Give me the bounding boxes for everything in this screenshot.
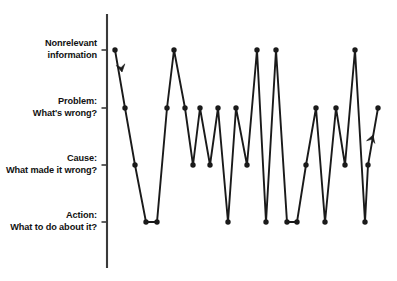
axis-label-action-line2: What to do about it? — [10, 222, 97, 234]
axis-label-nonrelevant: Nonrelevantinformation — [45, 38, 97, 61]
data-point — [333, 105, 338, 110]
arrow-annotation-group — [116, 64, 377, 143]
data-point — [154, 219, 159, 224]
data-point — [273, 47, 278, 52]
data-point — [122, 105, 127, 110]
data-point — [365, 162, 370, 167]
data-point — [233, 105, 238, 110]
axis-label-action-line1: Action: — [10, 210, 97, 222]
data-point — [362, 219, 367, 224]
data-point — [197, 105, 202, 110]
data-point — [254, 47, 259, 52]
data-point — [322, 219, 327, 224]
data-point — [215, 105, 220, 110]
axis-group — [102, 14, 108, 268]
axis-label-problem-line1: Problem: — [33, 96, 97, 108]
data-point — [303, 162, 308, 167]
data-point — [352, 47, 357, 52]
series-line — [115, 50, 378, 222]
chart-figure: NonrelevantinformationProblem:What's wro… — [0, 0, 397, 281]
data-point — [294, 219, 299, 224]
data-point — [375, 105, 380, 110]
data-point — [143, 219, 148, 224]
axis-label-cause: Cause:What made it wrong? — [6, 153, 97, 176]
data-point — [263, 219, 268, 224]
axis-label-nonrelevant-line2: information — [45, 50, 97, 62]
data-series-group — [112, 47, 380, 224]
axis-label-problem-line2: What's wrong? — [33, 108, 97, 120]
data-point — [164, 105, 169, 110]
data-point — [171, 47, 176, 52]
axis-label-cause-line1: Cause: — [6, 153, 97, 165]
data-point — [112, 47, 117, 52]
data-point — [182, 105, 187, 110]
data-point — [342, 162, 347, 167]
data-point — [284, 219, 289, 224]
data-point — [190, 162, 195, 167]
data-point — [207, 162, 212, 167]
axis-label-problem: Problem:What's wrong? — [33, 96, 97, 119]
data-point — [313, 105, 318, 110]
data-point — [225, 219, 230, 224]
axis-label-action: Action:What to do about it? — [10, 210, 97, 233]
axis-label-nonrelevant-line1: Nonrelevant — [45, 38, 97, 50]
axis-label-cause-line2: What made it wrong? — [6, 165, 97, 177]
data-point — [132, 162, 137, 167]
data-point — [244, 162, 249, 167]
